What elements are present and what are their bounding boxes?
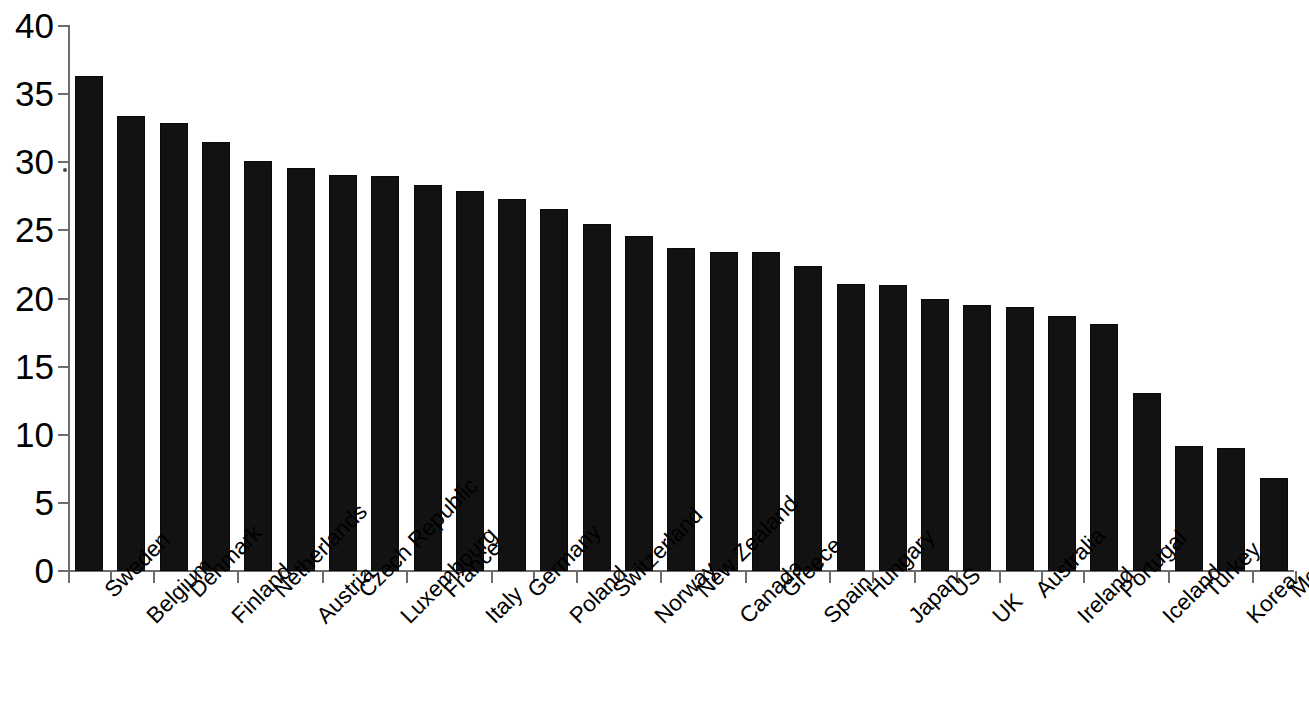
x-axis-tick-label: Spain: [820, 612, 836, 628]
x-axis-tick: [68, 571, 70, 583]
bar: [1048, 316, 1076, 571]
x-axis-tick: [406, 571, 408, 583]
bar: [287, 168, 315, 571]
bar-chart: 4035302520151050 SwedenBelgiumDenmarkFin…: [0, 0, 1309, 724]
x-axis-tick: [237, 571, 239, 583]
x-axis-tick-label: Finland: [228, 612, 244, 628]
x-axis-tick: [745, 571, 747, 583]
x-axis-tick-label: Korea: [1243, 612, 1259, 628]
y-axis-tick: [58, 229, 69, 231]
y-axis-tick: [58, 298, 69, 300]
bar: [794, 266, 822, 571]
x-axis-tick: [491, 571, 493, 583]
x-axis-tick-label: Ireland: [1074, 612, 1090, 628]
bar: [540, 209, 568, 571]
x-axis-tick-label: Japan: [905, 612, 921, 628]
bar: [202, 142, 230, 571]
x-axis-tick-label: Sweden: [101, 586, 117, 602]
y-axis-tick: [58, 502, 69, 504]
x-axis-tick: [576, 571, 578, 583]
bar: [117, 116, 145, 571]
x-axis-tick-label: Poland: [566, 612, 582, 628]
x-axis-tick-label: Luxembourg: [397, 612, 413, 628]
bar: [160, 123, 188, 571]
x-axis-tick-label: Canada: [736, 612, 752, 628]
y-axis-tick: [58, 25, 69, 27]
x-axis-tick: [829, 571, 831, 583]
x-axis-tick: [1252, 571, 1254, 583]
x-axis-tick-label: Norway: [651, 612, 667, 628]
bar: [244, 161, 272, 571]
y-axis-tick: [58, 161, 69, 163]
x-axis-tick: [914, 571, 916, 583]
y-axis-tick-label: 5: [35, 485, 54, 520]
x-axis-tick-label: Australia: [1032, 586, 1048, 602]
bar: [625, 236, 653, 571]
y-axis-tick-label: 25: [15, 212, 54, 247]
x-axis-tick: [322, 571, 324, 583]
bar: [371, 176, 399, 571]
bar: [1006, 307, 1034, 571]
bar: [456, 191, 484, 571]
bar: [963, 305, 991, 571]
x-axis-tick-label: Iceland: [1159, 612, 1175, 628]
bar: [1260, 478, 1288, 571]
scan-artifact-speck: [63, 168, 67, 172]
x-axis-tick: [1083, 571, 1085, 583]
x-axis-tick: [1168, 571, 1170, 583]
x-axis-tick-label: Austria: [313, 612, 329, 628]
bar: [879, 285, 907, 571]
x-axis-tick: [999, 571, 1001, 583]
bar: [837, 284, 865, 571]
x-axis-tick: [660, 571, 662, 583]
x-axis-tick: [153, 571, 155, 583]
bar: [75, 76, 103, 571]
y-axis-tick-label: 40: [15, 8, 54, 43]
x-axis-tick-label: UK: [989, 612, 1005, 628]
y-axis-tick-label: 35: [15, 76, 54, 111]
y-axis-tick-label: 20: [15, 281, 54, 316]
x-axis-tick-label: Italy: [482, 612, 498, 628]
y-axis-tick: [58, 366, 69, 368]
y-axis-tick-label: 0: [35, 553, 54, 588]
y-axis-tick-label: 10: [15, 417, 54, 452]
x-axis-tick-label: Belgium: [143, 612, 159, 628]
y-axis-tick-label: 30: [15, 144, 54, 179]
bar: [710, 252, 738, 571]
bar: [498, 199, 526, 571]
y-axis-tick-label: 15: [15, 349, 54, 384]
y-axis-tick: [58, 93, 69, 95]
y-axis-tick: [58, 434, 69, 436]
